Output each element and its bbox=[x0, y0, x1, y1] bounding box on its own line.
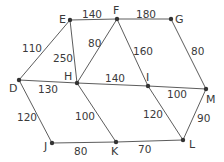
edge-weight-h-i: 140 bbox=[105, 72, 125, 84]
edge-weight-f-i: 160 bbox=[133, 45, 153, 57]
node-label-m: M bbox=[206, 93, 216, 106]
node-m bbox=[204, 87, 208, 91]
edge-weight-f-h: 80 bbox=[88, 37, 101, 49]
edge-weight-d-h: 130 bbox=[38, 83, 58, 95]
node-h bbox=[75, 81, 79, 85]
node-i bbox=[146, 84, 150, 88]
weighted-graph-diagram: 1101401802508016080130140100120100120908… bbox=[0, 0, 224, 162]
edge-weight-d-j: 120 bbox=[17, 111, 37, 123]
edge-weight-e-f: 140 bbox=[82, 8, 102, 20]
node-label-g: G bbox=[175, 13, 184, 26]
edge-weight-g-m: 80 bbox=[191, 45, 204, 57]
node-label-f: F bbox=[113, 4, 119, 17]
node-j bbox=[50, 141, 54, 145]
node-l bbox=[181, 138, 185, 142]
node-label-j: J bbox=[43, 140, 47, 153]
edge-weight-i-l: 120 bbox=[143, 108, 163, 120]
node-label-l: L bbox=[189, 138, 196, 151]
node-label-d: D bbox=[9, 82, 17, 95]
node-k bbox=[114, 140, 118, 144]
node-g bbox=[169, 17, 173, 21]
edge-k-l bbox=[116, 140, 183, 142]
node-label-i: I bbox=[146, 71, 149, 84]
edge-weight-f-g: 180 bbox=[136, 8, 156, 20]
edge-weight-i-m: 100 bbox=[167, 88, 187, 100]
edge-weight-m-l: 90 bbox=[197, 112, 210, 124]
node-label-h: H bbox=[64, 70, 72, 83]
node-label-k: K bbox=[111, 145, 119, 158]
edge-j-k bbox=[52, 142, 116, 143]
edge-weight-k-l: 70 bbox=[138, 143, 151, 155]
edge-weight-j-k: 80 bbox=[74, 145, 87, 157]
node-f bbox=[115, 17, 119, 21]
edge-weight-h-k: 100 bbox=[75, 110, 95, 122]
node-label-e: E bbox=[59, 13, 66, 26]
node-e bbox=[68, 18, 72, 22]
edge-weight-e-h: 250 bbox=[53, 52, 73, 64]
edge-weights-group: 1101401802508016080130140100120100120908… bbox=[17, 8, 210, 157]
edge-weight-d-e: 110 bbox=[22, 42, 42, 54]
